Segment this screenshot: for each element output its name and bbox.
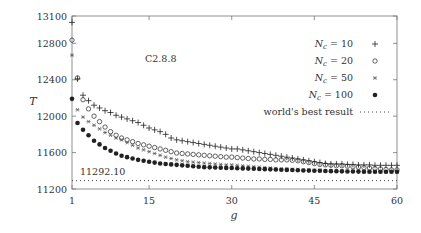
plus-marker bbox=[256, 150, 262, 156]
y-tick-label: 11600 bbox=[37, 147, 67, 158]
filled-circle-marker bbox=[312, 168, 317, 173]
filled-circle-marker bbox=[345, 169, 350, 174]
filled-circle-marker bbox=[268, 167, 273, 172]
open-circle-marker bbox=[136, 141, 140, 145]
filled-circle-marker bbox=[240, 166, 245, 171]
open-circle-marker bbox=[230, 155, 234, 159]
plus-marker bbox=[97, 105, 103, 111]
open-circle-marker bbox=[191, 152, 195, 156]
plus-marker bbox=[251, 149, 257, 155]
filled-circle-marker bbox=[207, 165, 212, 170]
filled-circle-marker bbox=[147, 159, 152, 164]
open-circle-marker bbox=[125, 138, 129, 142]
open-circle-marker bbox=[252, 157, 256, 161]
plus-marker bbox=[377, 162, 383, 168]
asterisk-marker bbox=[153, 152, 157, 156]
asterisk-marker bbox=[197, 161, 201, 165]
plus-marker bbox=[91, 102, 97, 108]
filled-circle-marker bbox=[285, 168, 290, 173]
filled-circle-marker bbox=[395, 169, 400, 174]
plus-marker bbox=[119, 114, 125, 120]
plus-marker bbox=[86, 98, 92, 104]
legend-label: Nc = 20 bbox=[314, 55, 353, 68]
y-tick-label: 11200 bbox=[37, 184, 67, 195]
plus-marker bbox=[196, 140, 202, 146]
plus-marker bbox=[240, 147, 246, 153]
filled-circle-marker bbox=[152, 160, 157, 165]
open-circle-marker bbox=[257, 157, 261, 161]
open-circle-marker bbox=[268, 157, 272, 161]
filled-circle-marker bbox=[180, 163, 185, 168]
plus-marker bbox=[130, 118, 136, 124]
legend: Nc = 10Nc = 20Nc = 50Nc = 100world's bes… bbox=[264, 38, 392, 117]
plus-marker bbox=[223, 145, 229, 151]
filled-circle-marker bbox=[92, 138, 97, 143]
open-circle-marker bbox=[152, 145, 156, 149]
y-tick-label: 12400 bbox=[37, 74, 67, 85]
legend-label-world-best: world's best result bbox=[264, 106, 354, 117]
legend-label: Nc = 10 bbox=[314, 38, 353, 51]
filled-circle-marker bbox=[86, 133, 91, 138]
chart-title: C2.8.8 bbox=[145, 53, 176, 64]
filled-circle-marker bbox=[318, 168, 323, 173]
filled-circle-marker bbox=[367, 169, 372, 174]
filled-circle-marker bbox=[351, 169, 356, 174]
plus-marker bbox=[229, 146, 235, 152]
filled-circle-marker bbox=[218, 165, 223, 170]
filled-circle-marker bbox=[235, 166, 240, 171]
asterisk-marker bbox=[169, 157, 173, 161]
open-circle-marker bbox=[114, 133, 118, 137]
open-circle-marker bbox=[202, 153, 206, 157]
filled-circle-marker bbox=[389, 169, 394, 174]
filled-circle-marker bbox=[378, 169, 383, 174]
filled-circle-marker bbox=[356, 169, 361, 174]
filled-circle-marker bbox=[246, 166, 251, 171]
filled-circle-marker bbox=[229, 166, 234, 171]
filled-circle-marker bbox=[114, 151, 119, 156]
filled-circle-marker bbox=[262, 167, 267, 172]
asterisk-marker bbox=[180, 159, 184, 163]
filled-circle-marker bbox=[373, 169, 378, 174]
filled-circle-marker bbox=[158, 161, 163, 166]
plus-marker bbox=[201, 141, 207, 147]
legend-label: Nc = 50 bbox=[314, 72, 353, 85]
plus-marker bbox=[135, 120, 141, 126]
plus-marker bbox=[163, 131, 169, 137]
chart: 112001160012000124001280013100 115304560… bbox=[0, 0, 421, 233]
open-circle-marker bbox=[185, 152, 189, 156]
filled-circle-marker bbox=[301, 168, 306, 173]
x-axis-title: g bbox=[230, 209, 237, 222]
plus-marker bbox=[234, 146, 240, 152]
plus-marker bbox=[267, 151, 273, 157]
open-circle-marker bbox=[180, 151, 184, 155]
plus-marker bbox=[207, 142, 213, 148]
plus-marker bbox=[157, 129, 163, 135]
asterisk-marker bbox=[158, 154, 162, 158]
asterisk-marker bbox=[98, 127, 102, 131]
y-tick-label: 13100 bbox=[37, 11, 67, 22]
asterisk-marker bbox=[81, 115, 85, 119]
open-circle-marker bbox=[213, 154, 217, 158]
x-tick-label: 60 bbox=[391, 195, 403, 206]
open-circle-marker bbox=[103, 125, 107, 129]
plus-marker bbox=[141, 122, 147, 128]
filled-circle-marker bbox=[185, 163, 190, 168]
open-circle-marker bbox=[92, 114, 96, 118]
legend-label: Nc = 100 bbox=[308, 89, 353, 102]
filled-circle-marker bbox=[119, 153, 124, 158]
plus-marker bbox=[278, 153, 284, 159]
asterisk-marker bbox=[191, 160, 195, 164]
asterisk-marker bbox=[164, 155, 168, 159]
filled-circle-marker bbox=[384, 169, 389, 174]
open-circle-marker bbox=[174, 151, 178, 155]
world-best-annotation: 11292.10 bbox=[80, 166, 125, 177]
filled-circle-marker bbox=[290, 168, 295, 173]
asterisk-marker bbox=[175, 158, 179, 162]
filled-circle-marker bbox=[202, 165, 207, 170]
asterisk-marker bbox=[373, 76, 377, 80]
x-tick-label: 45 bbox=[308, 195, 320, 206]
filled-circle-marker bbox=[362, 169, 367, 174]
asterisk-marker bbox=[87, 120, 91, 124]
plus-marker bbox=[152, 127, 158, 133]
filled-circle-marker bbox=[224, 166, 229, 171]
